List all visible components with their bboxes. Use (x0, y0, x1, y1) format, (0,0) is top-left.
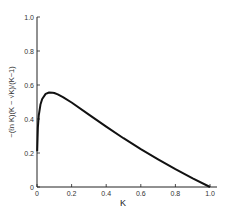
x-tick-label: 0.4 (101, 190, 111, 197)
y-axis-label: −(ℓn K)(K − √K)/(K−1) (7, 66, 16, 138)
x-tick-label: 1.0 (205, 190, 215, 197)
axes (37, 17, 217, 187)
x-tick-label: 0.6 (136, 190, 146, 197)
y-tick-label: 0.6 (24, 82, 34, 89)
x-axis-label: K (120, 198, 126, 208)
y-tick-label: 0.4 (24, 116, 34, 123)
x-tick-label: 0.8 (171, 190, 181, 197)
x-tick-label: 0 (35, 190, 39, 197)
line-chart: 00.20.40.60.81.0 00.20.40.60.81.0 K −(ℓn… (0, 0, 228, 212)
data-curve (37, 92, 210, 187)
y-tick-label: 0 (30, 184, 34, 191)
y-tick-label: 0.8 (24, 48, 34, 55)
y-tick-label: 1.0 (24, 14, 34, 21)
x-tick-label: 0.2 (67, 190, 77, 197)
y-ticks: 00.20.40.60.81.0 (24, 14, 40, 191)
x-ticks: 00.20.40.60.81.0 (35, 184, 215, 197)
y-tick-label: 0.2 (24, 150, 34, 157)
